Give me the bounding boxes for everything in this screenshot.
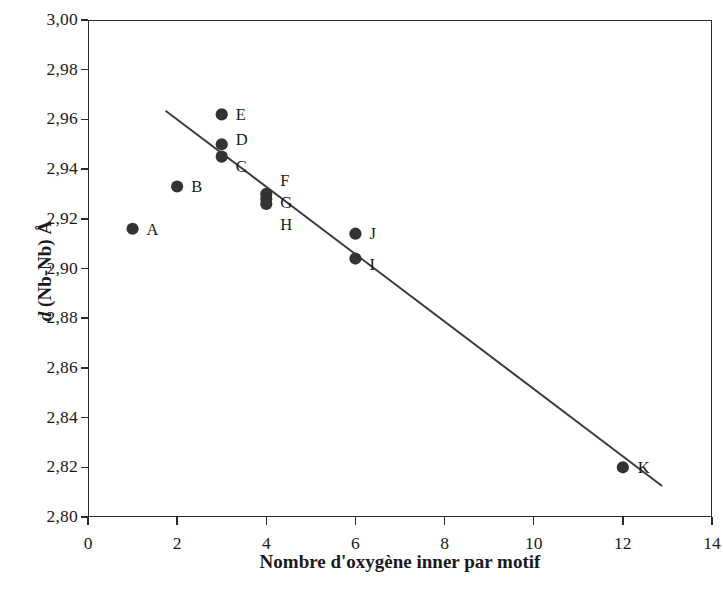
x-axis-tick-label: 0 — [48, 535, 128, 553]
data-point-label: A — [147, 222, 159, 239]
data-point-label: H — [280, 217, 292, 234]
x-axis-tick-label: 4 — [226, 535, 306, 553]
x-axis-tick-mark — [622, 517, 624, 525]
y-axis-tick-mark — [81, 168, 88, 170]
y-axis-tick-mark — [81, 317, 88, 319]
y-axis-title: d (Nb-Nb) Å — [34, 121, 56, 421]
y-axis-title-bold-part: (Nb-Nb) Å — [34, 221, 55, 312]
y-axis-tick-mark — [81, 119, 88, 121]
data-point-label: D — [236, 132, 248, 149]
data-point-label: B — [191, 179, 202, 196]
x-axis-tick-mark — [87, 517, 89, 525]
plot-frame — [88, 20, 712, 517]
y-axis-tick-mark — [81, 417, 88, 419]
y-axis-tick-mark — [81, 69, 88, 71]
x-axis-tick-mark — [355, 517, 357, 525]
x-axis-title: Nombre d'oxygène inner par motif — [88, 551, 712, 573]
x-axis-tick-label: 10 — [494, 535, 574, 553]
data-point-label: C — [236, 159, 247, 176]
y-axis-tick-label: 3,00 — [0, 11, 78, 29]
data-point-label: G — [280, 195, 292, 212]
chart-figure: 2,802,822,842,862,882,902,922,942,962,98… — [0, 0, 723, 590]
y-axis-title-italic-part: d — [34, 312, 55, 322]
data-point-label: F — [280, 173, 289, 190]
data-point-label: E — [236, 107, 246, 124]
x-axis-tick-label: 2 — [137, 535, 217, 553]
y-axis-tick-mark — [81, 218, 88, 220]
y-axis-tick-label: 2,98 — [0, 61, 78, 79]
x-axis-tick-label: 14 — [672, 535, 723, 553]
y-axis-tick-label: 2,80 — [0, 508, 78, 526]
data-point-label: I — [369, 257, 375, 274]
data-point-label: J — [369, 226, 375, 243]
x-axis-tick-label: 6 — [315, 535, 395, 553]
x-axis-tick-mark — [266, 517, 268, 525]
x-axis-tick-mark — [444, 517, 446, 525]
y-axis-tick-mark — [81, 268, 88, 270]
x-axis-tick-mark — [533, 517, 535, 525]
y-axis-tick-label: 2,82 — [0, 458, 78, 476]
data-point-label: K — [638, 460, 650, 477]
x-axis-tick-label: 12 — [583, 535, 663, 553]
x-axis-tick-label: 8 — [405, 535, 485, 553]
x-axis-tick-mark — [711, 517, 713, 525]
x-axis-tick-mark — [176, 517, 178, 525]
y-axis-tick-mark — [81, 467, 88, 469]
y-axis-tick-mark — [81, 19, 88, 21]
y-axis-tick-mark — [81, 367, 88, 369]
